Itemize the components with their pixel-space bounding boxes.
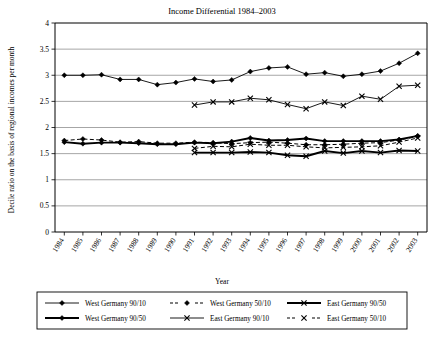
- chart-background: [0, 0, 444, 340]
- x-axis-label: Year: [215, 277, 229, 286]
- y-tick-label: 1.5: [40, 149, 50, 158]
- y-tick-label: 3.5: [40, 45, 50, 54]
- y-tick-label: 3: [45, 71, 49, 80]
- chart-figure: Income Differential 1984–2003 Decile rat…: [0, 0, 444, 340]
- legend-label: East Germany 90/10: [210, 315, 269, 323]
- legend-label: East Germany 50/10: [327, 315, 386, 323]
- y-tick-label: 2.5: [40, 97, 50, 106]
- y-tick-label: 4: [45, 19, 49, 28]
- legend-label: West Germany 90/50: [85, 315, 146, 323]
- y-tick-label: 0.5: [40, 201, 50, 210]
- legend-label: West Germany 50/10: [210, 300, 271, 308]
- legend-label: East Germany 90/50: [327, 300, 386, 308]
- chart-legend: West Germany 90/10West Germany 90/50West…: [37, 292, 407, 329]
- y-tick-label: 1: [45, 175, 49, 184]
- income-differential-line-chart: Income Differential 1984–2003 Decile rat…: [0, 0, 444, 340]
- y-tick-label: 2: [45, 123, 49, 132]
- legend-label: West Germany 90/10: [85, 300, 146, 308]
- y-tick-label: 0: [45, 228, 49, 237]
- y-axis-label: Decile ratio on the basis of regional in…: [7, 47, 16, 214]
- chart-title: Income Differential 1984–2003: [168, 6, 275, 16]
